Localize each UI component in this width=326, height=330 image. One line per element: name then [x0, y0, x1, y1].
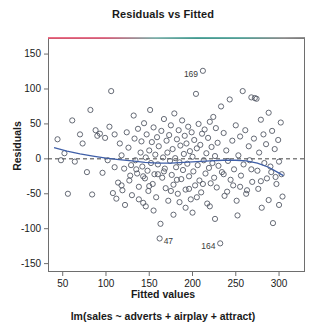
y-tick-label: -100 [7, 223, 41, 234]
y-tick-label: -150 [7, 258, 41, 269]
data-points [55, 88, 285, 226]
y-tick-label: 150 [7, 48, 41, 59]
outlier-label-164: 164 [201, 241, 215, 251]
y-axis-title: Residuals [11, 96, 23, 196]
loess-smoother-line [54, 148, 283, 176]
axis-ticks [44, 54, 279, 276]
model-formula-caption: lm(sales ~ adverts + airplay + attract) [0, 310, 326, 322]
y-tick-label: 100 [7, 83, 41, 94]
outlier-label-47: 47 [164, 236, 173, 246]
outlier-label-169: 169 [184, 69, 198, 79]
residuals-vs-fitted-plot: Residuals vs Fitted 150100500-50-100-150… [0, 0, 326, 330]
x-axis-title: Fitted values [0, 288, 326, 300]
